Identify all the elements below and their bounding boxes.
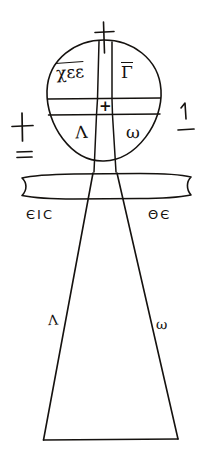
left-margin-stroke-lower (17, 157, 32, 158)
right-margin-stroke (178, 129, 194, 130)
quadrant-label-top-right: Γ (121, 62, 133, 81)
quadrant-label-bottom-left: Λ (74, 124, 87, 142)
inscription-left: ЄIC (26, 208, 54, 221)
shaft-base (44, 439, 179, 440)
left-margin-stroke-upper (17, 152, 32, 153)
shaft-label-right: ω (156, 317, 168, 332)
shaft-label-left: Λ (48, 313, 59, 328)
left-margin-cross-horizontal (12, 126, 33, 127)
crossbar (22, 174, 191, 200)
quadrant-label-top-left: χεε (55, 61, 84, 82)
ankh-drawing (0, 0, 212, 460)
figure-canvas: + χεε Γ Λ ω ЄIC ΘЄ Λ ω (0, 0, 212, 460)
finial-cross-vertical (104, 22, 105, 53)
inscription-right: ΘЄ (148, 208, 171, 221)
quadrant-label-bottom-right: ω (126, 124, 141, 142)
loop-shaft-right (112, 42, 116, 172)
loop-center-cross: + (99, 99, 112, 114)
left-margin-cross-vertical (22, 113, 23, 141)
right-margin-numeral (181, 103, 186, 119)
finial-cross-horizontal (95, 32, 114, 33)
